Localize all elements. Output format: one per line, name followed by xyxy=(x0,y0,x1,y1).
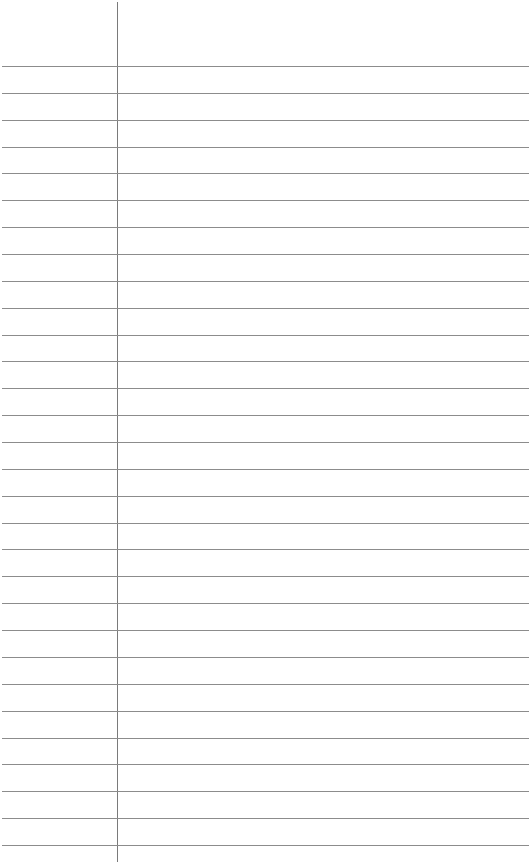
ruled-line xyxy=(2,576,529,577)
ruled-line xyxy=(2,415,529,416)
ruled-line xyxy=(2,818,529,819)
ruled-line xyxy=(2,845,529,846)
ruled-line xyxy=(2,523,529,524)
ruled-line xyxy=(2,711,529,712)
ruled-line xyxy=(2,66,529,67)
ruled-line xyxy=(2,388,529,389)
ruled-line xyxy=(2,738,529,739)
margin-line xyxy=(117,2,118,862)
ruled-line xyxy=(2,603,529,604)
ruled-line xyxy=(2,308,529,309)
ruled-line xyxy=(2,281,529,282)
ruled-line xyxy=(2,764,529,765)
ruled-line xyxy=(2,93,529,94)
ruled-line xyxy=(2,469,529,470)
ruled-line xyxy=(2,657,529,658)
ruled-line xyxy=(2,791,529,792)
ruled-line xyxy=(2,227,529,228)
ruled-line xyxy=(2,361,529,362)
ruled-line xyxy=(2,442,529,443)
ruled-line xyxy=(2,200,529,201)
ruled-line xyxy=(2,496,529,497)
ruled-line xyxy=(2,173,529,174)
ruled-line xyxy=(2,630,529,631)
ruled-line xyxy=(2,684,529,685)
ruled-line xyxy=(2,335,529,336)
ruled-line xyxy=(2,254,529,255)
ruled-line xyxy=(2,549,529,550)
ruled-line xyxy=(2,120,529,121)
lined-paper-page xyxy=(0,0,531,864)
ruled-line xyxy=(2,147,529,148)
